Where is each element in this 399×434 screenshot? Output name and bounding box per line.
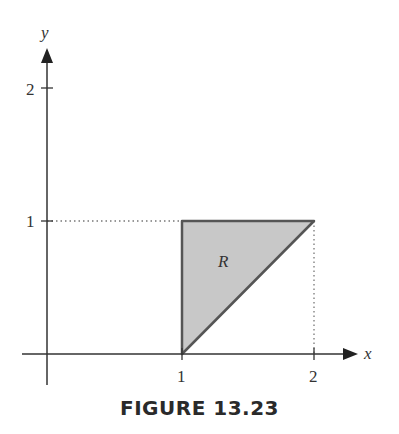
y-tick-label-1: 1 bbox=[26, 212, 35, 231]
y-axis-arrow-icon bbox=[41, 48, 53, 63]
x-axis-arrow-icon bbox=[343, 348, 358, 360]
region-label: R bbox=[217, 252, 229, 271]
x-axis-label: x bbox=[363, 344, 372, 363]
figure-caption: FIGURE 13.23 bbox=[0, 396, 399, 420]
region-r bbox=[182, 221, 314, 354]
y-tick-label-2: 2 bbox=[26, 80, 35, 99]
figure-diagram: y x 2 1 1 2 R bbox=[0, 0, 399, 434]
x-tick-label-1: 1 bbox=[177, 367, 186, 386]
y-axis-label: y bbox=[39, 23, 49, 42]
x-tick-label-2: 2 bbox=[309, 367, 318, 386]
